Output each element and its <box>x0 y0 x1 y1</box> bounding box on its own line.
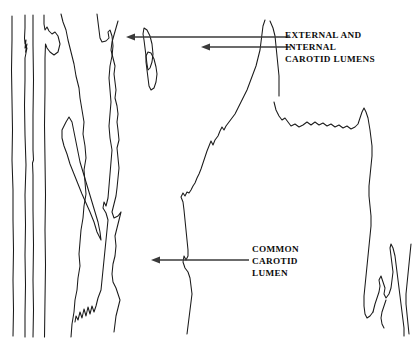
carotid-lumens-figure: EXTERNAL AND INTERNAL CAROTID LUMENS COM… <box>0 0 420 341</box>
label-common-carotid-lumen: COMMON CAROTID LUMEN <box>252 243 299 280</box>
label-external-internal-carotid-lumens: EXTERNAL AND INTERNAL CAROTID LUMENS <box>285 29 375 66</box>
